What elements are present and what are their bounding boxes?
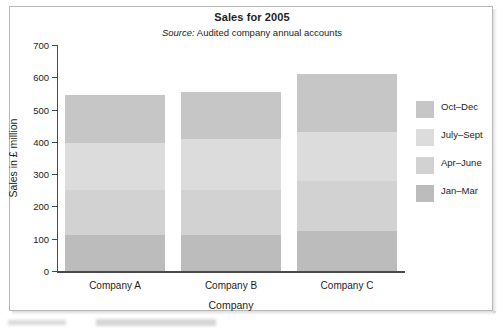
bar-segment bbox=[297, 132, 397, 181]
page-edge-smudge-left bbox=[8, 320, 66, 325]
y-tick-mark bbox=[52, 239, 57, 240]
stacked-bar bbox=[297, 74, 397, 271]
y-tick-mark bbox=[52, 45, 57, 46]
y-tick-label: 200 bbox=[33, 201, 49, 212]
x-tick-label: Company C bbox=[289, 280, 405, 291]
y-tick-label: 300 bbox=[33, 169, 49, 180]
figure-shadow-right bbox=[493, 9, 497, 313]
figure: Sales for 2005 Source: Audited company a… bbox=[0, 0, 504, 328]
bar-segment bbox=[65, 190, 165, 235]
y-tick-mark bbox=[52, 174, 57, 175]
chart-subtitle: Source: Audited company annual accounts bbox=[0, 27, 504, 38]
bar-segment bbox=[181, 235, 281, 271]
legend-label: Jan–Mar bbox=[441, 185, 478, 196]
page-edge-smudge-right bbox=[96, 319, 216, 326]
y-axis-line bbox=[57, 45, 58, 271]
legend-swatch bbox=[416, 185, 434, 202]
bar-segment bbox=[181, 139, 281, 190]
bar-segment bbox=[65, 235, 165, 271]
subtitle-source-text: Audited company annual accounts bbox=[195, 27, 342, 38]
y-tick-label: 700 bbox=[33, 40, 49, 51]
y-tick-label: 0 bbox=[44, 266, 49, 277]
bar-segment bbox=[297, 74, 397, 132]
legend-swatch bbox=[416, 129, 434, 146]
plot-area: 7006005004003002001000 bbox=[57, 45, 405, 271]
y-tick-label: 500 bbox=[33, 104, 49, 115]
page-edge-artifact bbox=[0, 318, 504, 328]
legend-label: Apr–June bbox=[441, 157, 482, 168]
bar-segment bbox=[297, 231, 397, 271]
y-axis-label: Sales in £ million bbox=[7, 45, 21, 271]
legend-label: Oct–Dec bbox=[441, 101, 478, 112]
stacked-bar bbox=[181, 92, 281, 271]
figure-shadow-bottom bbox=[12, 311, 496, 315]
bar-segment bbox=[65, 95, 165, 142]
y-tick-mark bbox=[52, 142, 57, 143]
bar-segment bbox=[297, 181, 397, 230]
legend-swatch bbox=[416, 101, 434, 118]
chart-title: Sales for 2005 bbox=[0, 11, 504, 23]
y-tick-label: 100 bbox=[33, 233, 49, 244]
x-tick-label: Company A bbox=[57, 280, 173, 291]
y-tick-mark bbox=[52, 110, 57, 111]
bar-segment bbox=[181, 92, 281, 139]
x-axis-label: Company bbox=[57, 299, 405, 311]
x-axis-line bbox=[57, 271, 405, 273]
bar-segment bbox=[65, 143, 165, 191]
y-tick-label: 400 bbox=[33, 136, 49, 147]
y-tick-mark bbox=[52, 271, 57, 272]
legend-label: July–Sept bbox=[441, 129, 483, 140]
legend-swatch bbox=[416, 157, 434, 174]
y-tick-mark bbox=[52, 77, 57, 78]
subtitle-source-label: Source: bbox=[162, 27, 195, 38]
stacked-bar bbox=[65, 95, 165, 271]
x-tick-label: Company B bbox=[173, 280, 289, 291]
bar-segment bbox=[181, 190, 281, 234]
y-tick-label: 600 bbox=[33, 72, 49, 83]
y-tick-mark bbox=[52, 206, 57, 207]
